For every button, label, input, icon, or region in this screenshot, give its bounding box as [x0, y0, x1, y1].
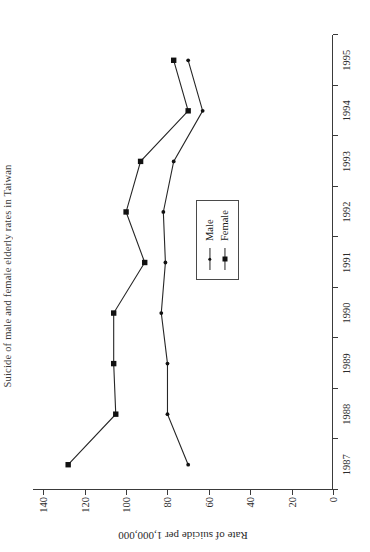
y-tick [167, 490, 168, 495]
legend-item-male: Male [202, 210, 217, 270]
x-tick [333, 186, 338, 187]
y-tick [126, 490, 127, 495]
dot-marker-icon [204, 248, 216, 270]
data-point-male [166, 362, 170, 366]
data-point-female [138, 159, 143, 164]
x-tick [333, 337, 338, 338]
y-tick [292, 490, 293, 495]
y-tick-label: 140 [38, 497, 49, 513]
data-point-male [172, 159, 176, 163]
data-point-female [123, 209, 128, 214]
data-point-male [164, 261, 168, 265]
data-point-male [166, 412, 170, 416]
data-point-male [161, 210, 165, 214]
data-point-female [65, 462, 70, 467]
y-axis-title-text: Rate of suicide per 1,000,000 [118, 530, 248, 542]
x-tick [333, 135, 338, 136]
data-point-male [186, 463, 190, 467]
legend: Male Female [196, 200, 239, 280]
x-tick [333, 85, 338, 86]
x-tick-label: 1992 [341, 201, 352, 222]
y-tick [85, 490, 86, 495]
data-point-female [113, 411, 118, 416]
data-point-female [185, 108, 190, 113]
legend-label-female: Female [219, 210, 230, 241]
x-tick-label: 1993 [341, 151, 352, 172]
legend-label-male: Male [204, 219, 215, 241]
x-tick-label: 1989 [341, 353, 352, 374]
rotated-chart-canvas: Suicide of male and female elderly rates… [0, 0, 370, 552]
y-tick-label: 100 [121, 497, 132, 513]
x-tick-label: 1990 [341, 303, 352, 324]
y-tick-label: 40 [245, 497, 256, 508]
plot-area: 020406080100120140 198719881989199019911… [33, 35, 333, 490]
y-tick-label: 120 [79, 497, 90, 513]
y-tick-label: 60 [203, 497, 214, 508]
x-tick [333, 438, 338, 439]
x-tick-label: 1987 [341, 454, 352, 475]
x-tick-label: 1991 [341, 252, 352, 273]
data-point-female [111, 361, 116, 366]
y-tick-label: 0 [328, 497, 339, 502]
series-line-female [68, 60, 188, 464]
x-tick-label: 1994 [341, 100, 352, 121]
y-axis-title: Rate of suicide per 1,000,000 [33, 528, 333, 544]
data-point-male [201, 109, 205, 113]
figure-frame: Suicide of male and female elderly rates… [0, 0, 370, 552]
x-tick [333, 287, 338, 288]
data-point-female [111, 310, 116, 315]
x-tick [333, 236, 338, 237]
data-series-layer [33, 35, 333, 490]
y-tick [209, 490, 210, 495]
x-tick [333, 489, 338, 490]
x-tick-label: 1988 [341, 404, 352, 425]
data-point-female [171, 58, 176, 63]
data-point-male [159, 311, 163, 315]
y-tick [333, 490, 334, 495]
y-tick-label: 20 [286, 497, 297, 508]
x-tick [333, 388, 338, 389]
x-tick [333, 34, 338, 35]
data-point-male [186, 58, 190, 62]
y-tick [250, 490, 251, 495]
y-tick [43, 490, 44, 495]
legend-item-female: Female [217, 210, 232, 270]
y-tick-label: 80 [162, 497, 173, 508]
data-point-female [142, 260, 147, 265]
chart-title: Suicide of male and female elderly rates… [2, 0, 13, 552]
square-marker-icon [219, 248, 231, 270]
x-tick-label: 1995 [341, 50, 352, 71]
